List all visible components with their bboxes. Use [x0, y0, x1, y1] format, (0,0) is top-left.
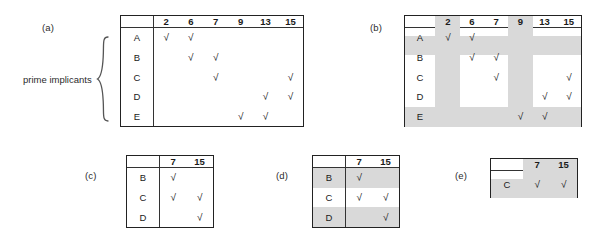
- corner-cell: [127, 156, 160, 168]
- table-a-grid: 2 6 7 9 13 15 A√√B√√C√√D√√E√√: [121, 16, 303, 126]
- row-header-c: C: [491, 171, 524, 198]
- table-b-body: A√√B√√C√√D√√E√√: [405, 28, 581, 127]
- table-row: B√: [313, 168, 399, 188]
- row-header-a: A: [405, 28, 436, 48]
- column-header-6: 6: [460, 16, 484, 28]
- row-header-e: E: [121, 106, 154, 126]
- column-header-15: 15: [186, 156, 213, 168]
- check-mark-icon: √: [288, 92, 294, 102]
- table-row: D√: [127, 207, 213, 227]
- cell-a-9-empty: [508, 28, 532, 48]
- cell-b-9-empty: [508, 48, 532, 68]
- cell-d-7-empty: [484, 87, 508, 107]
- cell-c-6-empty: [178, 67, 203, 87]
- cell-c-7-checked: √: [160, 188, 187, 208]
- table-row: B√: [127, 168, 213, 188]
- cell-d-15-checked: √: [372, 207, 399, 227]
- table-row: C√√: [121, 67, 303, 87]
- cell-d-13-checked: √: [533, 87, 557, 107]
- row-header-b: B: [121, 48, 154, 68]
- table-row: C√√: [313, 188, 399, 208]
- check-mark-icon: √: [561, 180, 567, 190]
- cell-d-15-checked: √: [278, 87, 303, 107]
- cell-d-2-empty: [436, 87, 460, 107]
- row-header-d: D: [121, 87, 154, 107]
- check-mark-icon: √: [383, 193, 389, 203]
- cell-a-15-empty: [278, 28, 303, 48]
- table-row: B√√: [121, 48, 303, 68]
- column-header-13: 13: [533, 16, 557, 28]
- check-mark-icon: √: [213, 53, 219, 63]
- check-mark-icon: √: [238, 112, 244, 122]
- cell-c-15-checked: √: [550, 171, 577, 198]
- cell-b-13-empty: [533, 48, 557, 68]
- cell-d-9-empty: [228, 87, 253, 107]
- cell-c-7-checked: √: [484, 67, 508, 87]
- column-header-15: 15: [278, 16, 303, 28]
- check-mark-icon: √: [518, 112, 524, 122]
- column-header-2: 2: [436, 16, 460, 28]
- table-row: D√: [313, 207, 399, 227]
- table-d-body: B√C√√D√: [313, 168, 399, 228]
- table-a-body: A√√B√√C√√D√√E√√: [121, 28, 303, 127]
- table-row: C√√: [127, 188, 213, 208]
- check-mark-icon: √: [170, 173, 176, 183]
- cell-c-15-checked: √: [557, 67, 581, 87]
- check-mark-icon: √: [288, 73, 294, 83]
- table-a-header: 2 6 7 9 13 15: [121, 16, 303, 28]
- column-header-6: 6: [178, 16, 203, 28]
- cell-b-7-checked: √: [484, 48, 508, 68]
- check-mark-icon: √: [542, 112, 548, 122]
- table-e-body: C√√: [491, 171, 577, 198]
- figure-canvas: (a) prime implicants 2 6 7 9 13 15 A√√B√…: [0, 0, 611, 236]
- cell-e-6-empty: [460, 106, 484, 126]
- table-a: 2 6 7 9 13 15 A√√B√√C√√D√√E√√: [120, 15, 304, 127]
- column-header-7: 7: [524, 159, 551, 171]
- check-mark-icon: √: [356, 173, 362, 183]
- cell-a-7-empty: [484, 28, 508, 48]
- cell-b-2-empty: [154, 48, 179, 68]
- cell-e-7-empty: [203, 106, 228, 126]
- column-header-7: 7: [203, 16, 228, 28]
- check-mark-icon: √: [263, 112, 269, 122]
- table-row: 7 15: [491, 159, 577, 171]
- panel-label-c: (c): [85, 170, 97, 181]
- cell-e-2-empty: [436, 106, 460, 126]
- cell-a-13-empty: [533, 28, 557, 48]
- check-mark-icon: √: [188, 53, 194, 63]
- cell-c-2-empty: [436, 67, 460, 87]
- corner-cell: [121, 16, 154, 28]
- cell-c-7-checked: √: [524, 171, 551, 198]
- table-c: 7 15 B√C√√D√: [126, 155, 214, 228]
- table-row: A√√: [405, 28, 581, 48]
- table-row: D√√: [121, 87, 303, 107]
- check-mark-icon: √: [469, 33, 475, 43]
- cell-c-7-checked: √: [346, 188, 373, 208]
- table-e: 7 15 C√√: [490, 158, 578, 198]
- check-mark-icon: √: [445, 33, 451, 43]
- check-mark-icon: √: [188, 33, 194, 43]
- table-row: C√√: [405, 67, 581, 87]
- column-header-2: 2: [154, 16, 179, 28]
- row-header-e: E: [405, 106, 436, 126]
- cell-e-2-empty: [154, 106, 179, 126]
- curly-brace-icon: [96, 36, 110, 122]
- row-header-c: C: [405, 67, 436, 87]
- table-e-header: 7 15: [491, 159, 577, 171]
- cell-a-2-checked: √: [436, 28, 460, 48]
- table-c-grid: 7 15 B√C√√D√: [127, 156, 213, 227]
- table-row: A√√: [121, 28, 303, 48]
- row-header-b: B: [127, 168, 160, 188]
- cell-c-9-empty: [228, 67, 253, 87]
- check-mark-icon: √: [469, 53, 475, 63]
- cell-e-6-empty: [178, 106, 203, 126]
- check-mark-icon: √: [213, 73, 219, 83]
- cell-a-6-checked: √: [178, 28, 203, 48]
- table-b-header: 2 6 7 9 13 15: [405, 16, 581, 28]
- table-row: D√√: [405, 87, 581, 107]
- table-row: 2 6 7 9 13 15: [121, 16, 303, 28]
- table-row: C√√: [491, 171, 577, 198]
- cell-e-15-empty: [278, 106, 303, 126]
- cell-d-13-checked: √: [253, 87, 278, 107]
- cell-d-6-empty: [460, 87, 484, 107]
